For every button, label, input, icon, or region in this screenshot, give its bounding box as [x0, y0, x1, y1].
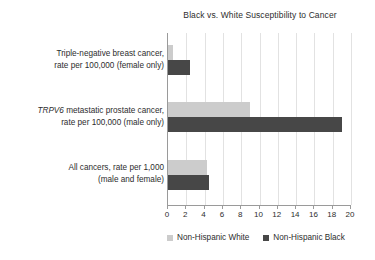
- bar[interactable]: [168, 160, 207, 175]
- chart-title: Black vs. White Susceptibility to Cancer: [150, 10, 370, 20]
- x-tick-label: 16: [309, 210, 318, 219]
- bar-group: [168, 148, 350, 205]
- y-axis-label-all-cancers: All cancers, rate per 1,000 (male and fe…: [8, 162, 164, 185]
- x-tick-label: 6: [220, 210, 224, 219]
- x-tick-label: 10: [254, 210, 263, 219]
- y-axis-category-labels: Triple-negative breast cancer, rate per …: [8, 33, 164, 205]
- legend-item-non-hispanic-black[interactable]: Non-Hispanic Black: [263, 233, 344, 242]
- x-axis-ticks: 02468101214161820: [167, 205, 350, 223]
- chart-figure: Black vs. White Susceptibility to Cancer…: [0, 0, 375, 260]
- chart-legend: Non-Hispanic White Non-Hispanic Black: [167, 233, 367, 242]
- gridline: [351, 33, 352, 205]
- y-axis-label-line-2: rate per 100,000 (female only): [54, 61, 164, 70]
- legend-label-non-hispanic-white: Non-Hispanic White: [177, 233, 249, 242]
- x-tick-label: 20: [346, 210, 355, 219]
- x-tick-mark: [240, 205, 241, 209]
- legend-swatch-icon-white: [167, 235, 173, 241]
- x-tick-mark: [222, 205, 223, 209]
- y-axis-label-prostate-cancer: TRPV6 metastatic prostate cancer, rate p…: [8, 105, 164, 128]
- x-tick-mark: [204, 205, 205, 209]
- x-tick-label: 12: [272, 210, 281, 219]
- x-tick-mark: [332, 205, 333, 209]
- x-tick-mark: [350, 205, 351, 209]
- x-tick-label: 18: [327, 210, 336, 219]
- x-tick-label: 4: [201, 210, 205, 219]
- y-axis-label-gene-name: TRPV6: [37, 106, 63, 115]
- bar-group: [168, 33, 350, 90]
- legend-swatch-icon-black: [263, 235, 269, 241]
- bar[interactable]: [168, 175, 209, 190]
- y-axis-label-line-2: rate per 100,000 (male only): [61, 118, 164, 127]
- x-tick-label: 2: [183, 210, 187, 219]
- x-tick-mark: [313, 205, 314, 209]
- x-tick-label: 14: [291, 210, 300, 219]
- x-tick-mark: [167, 205, 168, 209]
- y-axis-label-line-1-rest: metastatic prostate cancer,: [64, 106, 164, 115]
- plot-area: [167, 33, 350, 205]
- y-axis-label-line-1: All cancers, rate per 1,000: [68, 163, 164, 172]
- x-tick-mark: [295, 205, 296, 209]
- x-tick-mark: [277, 205, 278, 209]
- x-tick-mark: [185, 205, 186, 209]
- legend-item-non-hispanic-white[interactable]: Non-Hispanic White: [167, 233, 249, 242]
- x-tick-label: 8: [238, 210, 242, 219]
- x-tick-mark: [259, 205, 260, 209]
- y-axis-label-breast-cancer: Triple-negative breast cancer, rate per …: [8, 48, 164, 71]
- legend-label-non-hispanic-black: Non-Hispanic Black: [273, 233, 344, 242]
- bar-groups: [168, 33, 350, 205]
- y-axis-label-line-2: (male and female): [98, 175, 164, 184]
- bar[interactable]: [168, 102, 250, 117]
- bar[interactable]: [168, 45, 173, 60]
- bar[interactable]: [168, 117, 342, 132]
- bar-group: [168, 90, 350, 147]
- y-axis-label-line-1: Triple-negative breast cancer,: [56, 49, 164, 58]
- x-tick-label: 0: [165, 210, 169, 219]
- bar[interactable]: [168, 60, 190, 75]
